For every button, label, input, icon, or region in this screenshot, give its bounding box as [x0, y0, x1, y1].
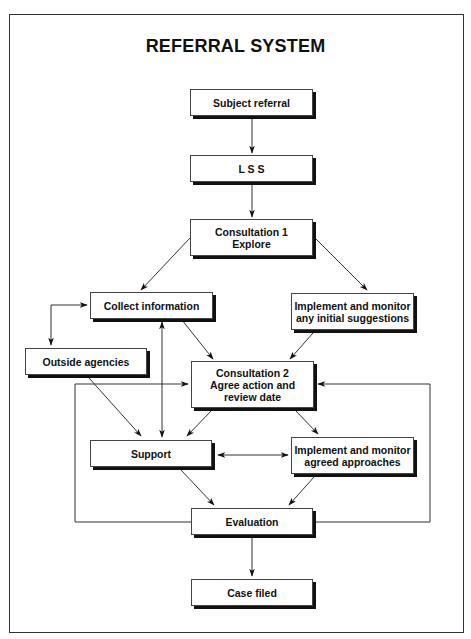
node-support: Support — [90, 440, 212, 467]
node-evaluation: Evaluation — [191, 508, 313, 535]
node-implement-agreed-approaches: Implement and monitor agreed approaches — [291, 437, 414, 474]
edge-collect-to-consultation2 — [182, 320, 213, 359]
edge-consultation2-to-support — [187, 410, 212, 436]
node-consultation-2: Consultation 2 Agree action and review d… — [191, 361, 314, 408]
node-lss: L S S — [190, 155, 313, 182]
node-subject-referral: Subject referral — [190, 89, 313, 116]
edge-implement-initial-to-consultation2 — [290, 333, 313, 359]
edge-support-to-evaluation — [181, 470, 214, 505]
node-case-filed: Case filed — [191, 579, 313, 606]
node-implement-initial-suggestions: Implement and monitor any initial sugges… — [291, 293, 414, 330]
edge-consultation2-to-implement-agreed — [295, 410, 318, 434]
node-collect-information: Collect information — [90, 292, 213, 319]
edge-consultation1-to-collect — [141, 238, 190, 290]
edge-outside-to-support — [89, 378, 141, 436]
node-outside-agencies: Outside agencies — [25, 348, 147, 375]
node-consultation-1: Consultation 1 Explore — [190, 219, 313, 256]
edge-consultation1-to-implement-initial — [315, 238, 367, 290]
edge-collect-outside-bidirectional — [51, 305, 87, 345]
edge-implement-agreed-to-evaluation — [289, 477, 314, 505]
